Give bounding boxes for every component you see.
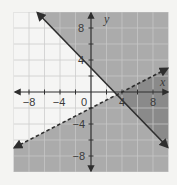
y-tick-label: −4 [72, 118, 85, 130]
y-tick-label: −8 [72, 150, 85, 162]
origin-label: 0 [81, 96, 87, 108]
y-tick-label: 8 [78, 22, 84, 34]
y-tick-label: 4 [78, 54, 84, 66]
x-tick-label: 8 [150, 96, 156, 108]
x-axis-label: x [159, 75, 166, 89]
x-tick-label: −8 [23, 96, 36, 108]
x-tick-label: −4 [53, 96, 66, 108]
inequality-graph: −8 −4 0 4 8 8 4 −4 −8 x y [0, 0, 177, 185]
x-tick-label: 4 [119, 96, 125, 108]
y-axis-label: y [103, 12, 110, 26]
